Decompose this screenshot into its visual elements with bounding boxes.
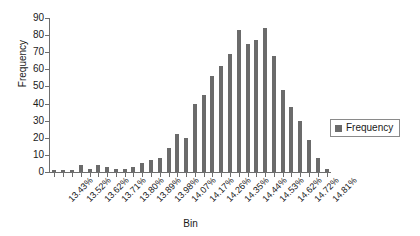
y-tick-mark	[45, 138, 49, 139]
y-tick-mark	[45, 69, 49, 70]
chart-legend: Frequency	[330, 119, 400, 137]
x-tick-mark	[230, 173, 231, 177]
x-tick-mark	[107, 173, 108, 177]
x-tick-mark	[195, 173, 196, 177]
x-tick-mark	[327, 173, 328, 177]
bar	[123, 169, 127, 172]
bar	[167, 148, 171, 172]
y-tick-label: 10	[22, 150, 44, 160]
bar	[307, 140, 311, 173]
bar	[325, 169, 329, 172]
bar	[193, 104, 197, 172]
y-tick-label: 20	[22, 133, 44, 143]
bar	[254, 40, 258, 172]
x-axis-tick-labels: 13.43%13.52%13.62%13.71%13.80%13.89%13.9…	[0, 176, 420, 220]
bar	[105, 167, 109, 172]
x-tick-mark	[212, 173, 213, 177]
bar	[184, 138, 188, 172]
legend-swatch-icon	[335, 125, 342, 132]
bar	[61, 170, 65, 172]
x-tick-mark	[133, 173, 134, 177]
y-axis-tick-labels: 9080706050403020100	[22, 12, 44, 172]
bar	[202, 95, 206, 172]
x-tick-mark	[81, 173, 82, 177]
x-tick-mark	[142, 173, 143, 177]
x-tick-mark	[309, 173, 310, 177]
x-tick-mark	[283, 173, 284, 177]
bar	[237, 30, 241, 172]
y-tick-label: 70	[22, 47, 44, 57]
y-tick-mark	[45, 121, 49, 122]
bar	[96, 165, 100, 172]
bar	[298, 121, 302, 172]
x-tick-mark	[291, 173, 292, 177]
x-tick-mark	[248, 173, 249, 177]
bar	[70, 170, 74, 172]
x-tick-mark	[63, 173, 64, 177]
x-tick-mark	[221, 173, 222, 177]
y-tick-label: 90	[22, 13, 44, 23]
plot-area	[50, 18, 331, 172]
x-tick-mark	[177, 173, 178, 177]
x-tick-mark	[125, 173, 126, 177]
bar	[131, 167, 135, 172]
x-tick-mark	[274, 173, 275, 177]
bar	[289, 107, 293, 172]
x-tick-mark	[151, 173, 152, 177]
y-tick-label: 40	[22, 99, 44, 109]
bar	[79, 165, 83, 172]
x-axis-line	[49, 172, 331, 173]
legend-label: Frequency	[346, 123, 393, 133]
y-tick-mark	[45, 104, 49, 105]
bar	[114, 169, 118, 172]
y-tick-label: 50	[22, 81, 44, 91]
x-tick-mark	[98, 173, 99, 177]
bar	[149, 160, 153, 172]
x-tick-mark	[90, 173, 91, 177]
bar	[158, 158, 162, 172]
histogram-chart: Frequency 9080706050403020100 13.43%13.5…	[0, 0, 420, 236]
y-tick-mark	[45, 52, 49, 53]
y-tick-mark	[45, 18, 49, 19]
bar	[316, 158, 320, 172]
y-tick-label: 30	[22, 116, 44, 126]
y-tick-mark	[45, 172, 49, 173]
bar	[210, 76, 214, 172]
x-tick-mark	[265, 173, 266, 177]
x-tick-mark	[72, 173, 73, 177]
x-tick-mark	[186, 173, 187, 177]
x-tick-mark	[204, 173, 205, 177]
bar	[246, 44, 250, 172]
y-tick-mark	[45, 86, 49, 87]
bar	[272, 56, 276, 172]
y-tick-mark	[45, 35, 49, 36]
y-tick-label: 80	[22, 30, 44, 40]
x-tick-mark	[256, 173, 257, 177]
y-tick-label: 60	[22, 64, 44, 74]
y-tick-mark	[45, 155, 49, 156]
x-tick-mark	[318, 173, 319, 177]
x-tick-mark	[54, 173, 55, 177]
bar	[175, 134, 179, 172]
x-tick-mark	[300, 173, 301, 177]
x-tick-mark	[239, 173, 240, 177]
x-tick-mark	[169, 173, 170, 177]
x-tick-mark	[160, 173, 161, 177]
bar	[228, 54, 232, 172]
x-axis-title: Bin	[50, 218, 331, 229]
bar	[140, 163, 144, 172]
bar	[88, 169, 92, 172]
x-tick-mark	[116, 173, 117, 177]
bar	[281, 90, 285, 172]
bar	[219, 66, 223, 172]
bar	[52, 170, 56, 172]
bar	[263, 28, 267, 172]
